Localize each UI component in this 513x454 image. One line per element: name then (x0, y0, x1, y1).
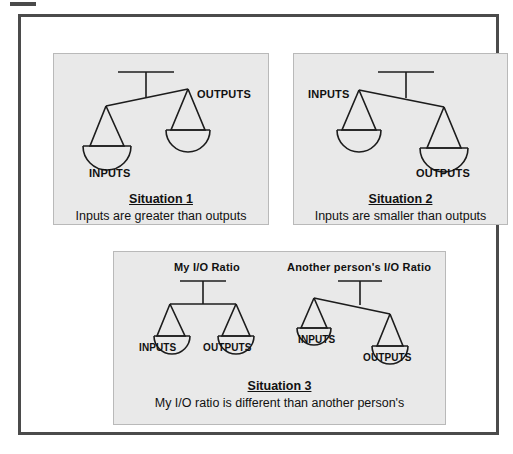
scale-2-right-label: OUTPUTS (416, 167, 470, 179)
scan-artifact-mark (10, 2, 36, 6)
situation-1-title: Situation 1 (129, 192, 193, 206)
panel-situation-3: My I/O Ratio Another person's I/O Ratio … (113, 251, 446, 425)
panel-situation-1: OUTPUTS INPUTS Situation 1 Inputs are gr… (53, 53, 269, 225)
scale-2-left-label: INPUTS (308, 88, 350, 100)
situation-2-title: Situation 2 (369, 192, 433, 206)
panel-situation-2: INPUTS OUTPUTS Situation 2 Inputs are sm… (293, 53, 508, 225)
scale-3b-heading: Another person's I/O Ratio (287, 261, 431, 273)
scale-1-right-label: OUTPUTS (197, 88, 251, 100)
caption-situation-3: Situation 3 My I/O ratio is different th… (114, 376, 445, 410)
scale-3a-heading: My I/O Ratio (174, 261, 240, 273)
scale-3b-left-label: INPUTS (298, 334, 335, 345)
scale-1-left-label: INPUTS (89, 167, 131, 179)
situation-3-description: My I/O ratio is different than another p… (114, 396, 445, 410)
situation-3-title: Situation 3 (248, 379, 312, 393)
figure-outer-frame: OUTPUTS INPUTS Situation 1 Inputs are gr… (18, 14, 499, 435)
caption-situation-1: Situation 1 Inputs are greater than outp… (54, 189, 268, 223)
balance-scale-icon (78, 68, 248, 173)
caption-situation-2: Situation 2 Inputs are smaller than outp… (294, 189, 507, 223)
scale-3b-right-label: OUTPUTS (363, 352, 411, 363)
situation-1-description: Inputs are greater than outputs (54, 209, 268, 223)
scale-3a-right-label: OUTPUTS (203, 342, 251, 353)
situation-2-description: Inputs are smaller than outputs (294, 209, 507, 223)
balance-scale-icon (332, 68, 502, 178)
scale-3a-left-label: INPUTS (139, 342, 176, 353)
